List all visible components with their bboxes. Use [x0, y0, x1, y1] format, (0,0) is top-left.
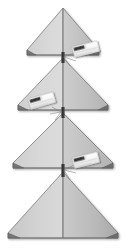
image-canvas: ALARM ALARM — [0, 0, 126, 248]
tiered-cone-figure: ALARM ALARM — [0, 0, 126, 248]
tier-4-bottom — [8, 172, 118, 238]
tier-1-left-face — [27, 8, 63, 55]
pole-segment-2 — [61, 107, 64, 118]
tier-4-right-face — [63, 172, 118, 238]
tier-4-left-face — [8, 172, 63, 238]
tier-3-left-face — [13, 113, 63, 168]
